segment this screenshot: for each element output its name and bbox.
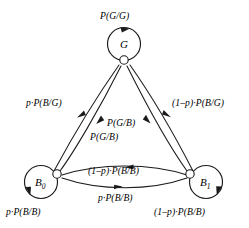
node-point-b0[interactable] (53, 170, 61, 178)
node-label-b1: B1 (200, 177, 210, 191)
edge-g-to-b1-path (130, 65, 193, 171)
node-point-g[interactable] (120, 56, 128, 64)
arrow-head-loop-b0 (25, 187, 31, 196)
edge-label-self-loop-g: P(G/G) (100, 11, 129, 21)
arrow-head-loop-b1 (216, 186, 222, 195)
arrow-head-b1-to-b0 (114, 185, 123, 190)
node-label-b1-sub: 1 (207, 182, 211, 191)
edge-b1-to-g-path (127, 66, 187, 171)
edge-label-self-loop-b1: (1–p)·P(B/B) (154, 207, 205, 217)
node-point-b1[interactable] (186, 170, 194, 178)
node-label-b0-sub: 0 (42, 182, 46, 191)
arrow-head-g-to-b0 (77, 111, 86, 118)
arrow-head-loop-g (121, 28, 131, 33)
node-label-b0: B0 (35, 177, 45, 191)
node-label-g: G (120, 39, 128, 50)
edge-label-b1-to-g: P(G/B) (107, 118, 135, 128)
arrow-head-b1-to-g (143, 115, 151, 124)
state-transition-diagram: G B0 B1 P(G/G) p·P(B/G) (1–p)·P(B/G) P(G… (0, 0, 249, 228)
edge-b1-to-b0-path (62, 178, 187, 189)
edge-label-b0-to-g: P(G/B) (90, 132, 118, 142)
node-label-b1-text: B (200, 176, 207, 188)
edge-label-b1-to-b0: p·P(B/B) (98, 193, 133, 203)
node-label-b0-text: B (35, 176, 42, 188)
edge-label-self-loop-b0: p·P(B/B) (6, 207, 41, 217)
edge-label-g-to-b1: (1–p)·P(B/G) (172, 98, 224, 108)
node-label-g-text: G (120, 38, 128, 50)
edge-label-g-to-b0: p·P(B/G) (26, 98, 62, 108)
edge-label-b0-to-b1: (1–p)·P(B/B) (88, 166, 139, 176)
arrow-head-b0-to-g (96, 115, 104, 124)
